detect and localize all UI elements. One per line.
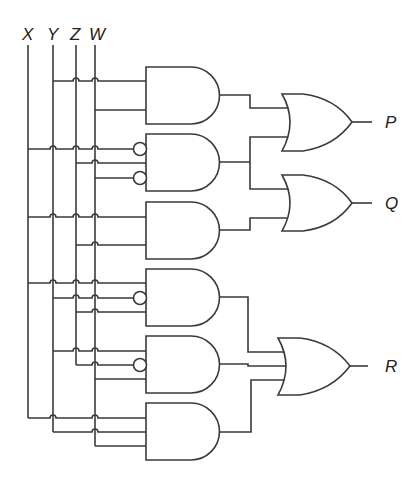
and-gates xyxy=(146,67,220,460)
input-label-y: Y xyxy=(47,26,58,43)
input-label-z: Z xyxy=(70,26,80,43)
not-bubble-a5-z xyxy=(134,359,147,372)
output-label-r: R xyxy=(385,358,397,375)
input-label-w: W xyxy=(89,26,105,43)
or-gate-r xyxy=(278,338,350,395)
not-bubble-a2-w xyxy=(134,172,147,185)
output-wires xyxy=(350,122,372,366)
input-wires xyxy=(28,78,146,446)
circuit-svg xyxy=(0,0,417,485)
and-gate-5 xyxy=(146,336,220,393)
and-gate-3 xyxy=(146,202,219,259)
inversion-bubbles xyxy=(134,143,147,372)
not-bubble-a2-x xyxy=(134,143,147,156)
or-gate-p xyxy=(282,94,352,151)
and-gate-4 xyxy=(146,269,220,326)
or-gates xyxy=(278,94,352,395)
and-gate-2 xyxy=(146,134,220,191)
and-gate-6 xyxy=(146,403,219,460)
logic-circuit-diagram: X Y Z W P Q R xyxy=(0,0,417,485)
output-label-p: P xyxy=(385,114,396,131)
not-bubble-a4-y xyxy=(134,292,147,305)
intermediate-wires xyxy=(219,95,290,432)
output-label-q: Q xyxy=(385,195,398,212)
and-gate-1 xyxy=(146,67,220,124)
or-gate-q xyxy=(282,175,352,231)
input-label-x: X xyxy=(22,26,33,43)
